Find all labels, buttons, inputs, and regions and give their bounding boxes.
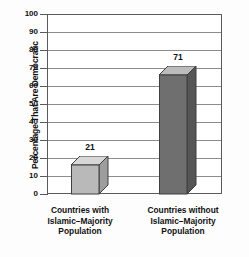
y-tick-label-10: 10 (10, 172, 38, 180)
y-tick-label-40: 40 (10, 118, 38, 126)
y-tick-0 (40, 194, 48, 195)
y-tick-label-60: 60 (10, 82, 38, 90)
y-tick-label-20: 20 (10, 154, 38, 162)
bar-islamic-majority[interactable] (71, 156, 109, 195)
category-label-2: Countries without Islamic–Majority Popul… (126, 205, 240, 237)
category-label-1: Countries with Islamic–Majority Populati… (28, 205, 132, 237)
bar-value-label-1: 21 (71, 142, 109, 152)
bar-chart: Percentage That Are Democratic 100 90 80… (0, 0, 249, 257)
y-tick-label-90: 90 (10, 28, 38, 36)
category-label-2-line3: Population (126, 226, 240, 237)
category-label-1-line1: Countries with (28, 205, 132, 216)
y-tick-label-0: 0 (10, 190, 38, 198)
y-tick-label-30: 30 (10, 136, 38, 144)
category-label-1-line3: Population (28, 226, 132, 237)
y-tick-label-100: 100 (10, 10, 38, 18)
gridline-80 (48, 50, 221, 51)
y-tick-label-70: 70 (10, 64, 38, 72)
gridline-90 (48, 32, 221, 33)
category-label-1-line2: Islamic–Majority (28, 216, 132, 227)
category-label-2-line2: Islamic–Majority (126, 216, 240, 227)
category-label-2-line1: Countries without (126, 205, 240, 216)
bar-non-islamic-majority[interactable] (159, 66, 197, 195)
y-tick-label-80: 80 (10, 46, 38, 54)
y-tick-label-50: 50 (10, 100, 38, 108)
bar-value-label-2: 71 (159, 52, 197, 62)
